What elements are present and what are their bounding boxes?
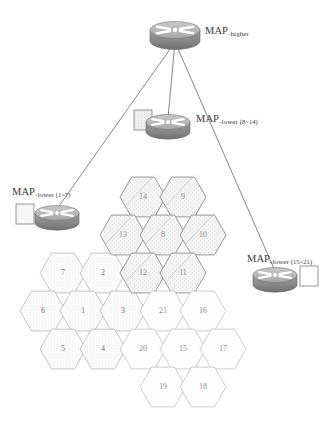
label-subscript: -higher bbox=[228, 30, 249, 38]
hex-cell[interactable]: 20 bbox=[120, 329, 166, 369]
diagram-canvas: 726135414913810121121162015171918 MAP-hi… bbox=[0, 0, 333, 446]
node-map-lower-1-7[interactable] bbox=[16, 204, 79, 230]
router-hub-icon bbox=[166, 120, 170, 124]
hex-cell[interactable]: 16 bbox=[180, 291, 226, 331]
hex-cell-number: 5 bbox=[61, 344, 65, 353]
hex-cell[interactable]: 6 bbox=[20, 291, 66, 331]
hex-cell[interactable]: 17 bbox=[200, 329, 246, 369]
label-map-lower-1-7: MAP-lower (1~7) bbox=[12, 181, 71, 199]
router-hub-icon bbox=[55, 211, 59, 215]
hex-cell-number: 14 bbox=[139, 192, 147, 201]
hex-cell[interactable]: 12 bbox=[120, 251, 166, 293]
cluster-swatch-box bbox=[300, 266, 318, 286]
hex-cell-number: 2 bbox=[101, 268, 105, 277]
label-subscript: -lower bbox=[35, 191, 54, 199]
hex-cell-number: 13 bbox=[119, 230, 127, 239]
label-subscript: -lower bbox=[270, 258, 289, 266]
label-map-lower-8-14: MAP-lower (8~14) bbox=[196, 108, 258, 126]
hex-cell-number: 3 bbox=[121, 306, 125, 315]
hex-cell-number: 20 bbox=[139, 344, 147, 353]
hex-cell-number: 19 bbox=[159, 382, 167, 391]
hex-cell-number: 18 bbox=[199, 382, 207, 391]
hex-cell[interactable]: 2 bbox=[80, 253, 126, 293]
node-map-lower-8-14[interactable] bbox=[134, 110, 190, 139]
hex-cell-number: 17 bbox=[219, 344, 227, 353]
hex-cell[interactable]: 13 bbox=[100, 213, 146, 255]
label-range: (8~14) bbox=[238, 118, 258, 125]
hex-cell-number: 4 bbox=[101, 344, 105, 353]
label-range: (1~7) bbox=[54, 191, 71, 198]
label-main: MAP bbox=[12, 186, 35, 197]
topology-svg: 726135414913810121121162015171918 bbox=[0, 0, 333, 446]
hex-cell-number: 1 bbox=[81, 306, 85, 315]
label-main: MAP bbox=[196, 113, 219, 124]
hex-cell-number: 6 bbox=[41, 306, 45, 315]
hex-cell-number: 12 bbox=[139, 268, 147, 277]
hex-cell[interactable]: 21 bbox=[140, 291, 186, 331]
hex-cell[interactable]: 5 bbox=[40, 329, 86, 369]
hex-cell[interactable]: 18 bbox=[180, 367, 226, 407]
hex-cell[interactable]: 11 bbox=[160, 251, 206, 293]
hex-cell[interactable]: 4 bbox=[80, 329, 126, 369]
hex-cell-number: 16 bbox=[199, 306, 207, 315]
hex-cell[interactable]: 7 bbox=[40, 253, 86, 293]
hex-cell-number: 21 bbox=[159, 306, 167, 315]
hex-cell-number: 15 bbox=[179, 344, 187, 353]
label-map-lower-15-21: MAP-lower (15~21) bbox=[247, 248, 312, 266]
hex-cell[interactable]: 3 bbox=[100, 291, 146, 331]
node-map-higher[interactable] bbox=[150, 22, 200, 50]
label-range: (15~21) bbox=[289, 258, 312, 265]
hex-cell-number: 11 bbox=[179, 268, 187, 277]
hex-cell[interactable]: 14 bbox=[120, 175, 166, 217]
node-map-lower-15-21[interactable] bbox=[253, 266, 318, 292]
hex-cell[interactable]: 8 bbox=[140, 213, 186, 255]
cluster-swatch-box bbox=[16, 204, 34, 224]
hex-cell[interactable]: 19 bbox=[140, 367, 186, 407]
label-subscript: -lower bbox=[219, 118, 238, 126]
hex-cell[interactable]: 1 bbox=[60, 291, 106, 331]
label-map-higher: MAP-higher bbox=[205, 20, 249, 38]
label-main: MAP bbox=[205, 25, 228, 36]
label-main: MAP bbox=[247, 253, 270, 264]
hex-cell[interactable]: 15 bbox=[160, 329, 206, 369]
hex-cell-number: 10 bbox=[199, 230, 207, 239]
hex-cell-number: 7 bbox=[61, 268, 65, 277]
hex-cell-number: 9 bbox=[181, 192, 185, 201]
hex-cell[interactable]: 10 bbox=[180, 213, 226, 255]
router-hub-icon bbox=[173, 28, 177, 32]
router-hub-icon bbox=[273, 273, 277, 277]
hex-cell[interactable]: 9 bbox=[160, 175, 206, 217]
hex-cell-number: 8 bbox=[161, 230, 165, 239]
link-line bbox=[168, 42, 175, 118]
